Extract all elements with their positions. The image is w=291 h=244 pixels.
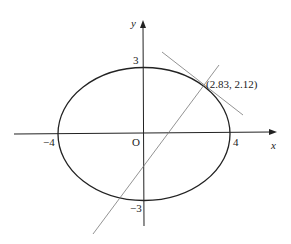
origin-label: O xyxy=(132,136,140,148)
y-axis xyxy=(140,20,146,226)
x-axis xyxy=(14,129,277,135)
y-axis-arrow-icon xyxy=(140,20,146,28)
point-label: (2.83, 2.12) xyxy=(206,78,258,91)
y-axis-label: y xyxy=(130,17,136,29)
tick-label-x-pos: 4 xyxy=(233,136,239,148)
secant-line xyxy=(93,65,219,234)
x-axis-label: x xyxy=(270,139,276,151)
tick-label-x-neg: −4 xyxy=(43,136,55,148)
tick-label-y-pos: 3 xyxy=(133,54,139,66)
ellipse-diagram: y x O −4 4 3 −3 (2.83, 2.12) xyxy=(0,0,291,244)
x-axis-arrow-icon xyxy=(269,129,277,135)
tick-label-y-neg: −3 xyxy=(130,202,142,214)
